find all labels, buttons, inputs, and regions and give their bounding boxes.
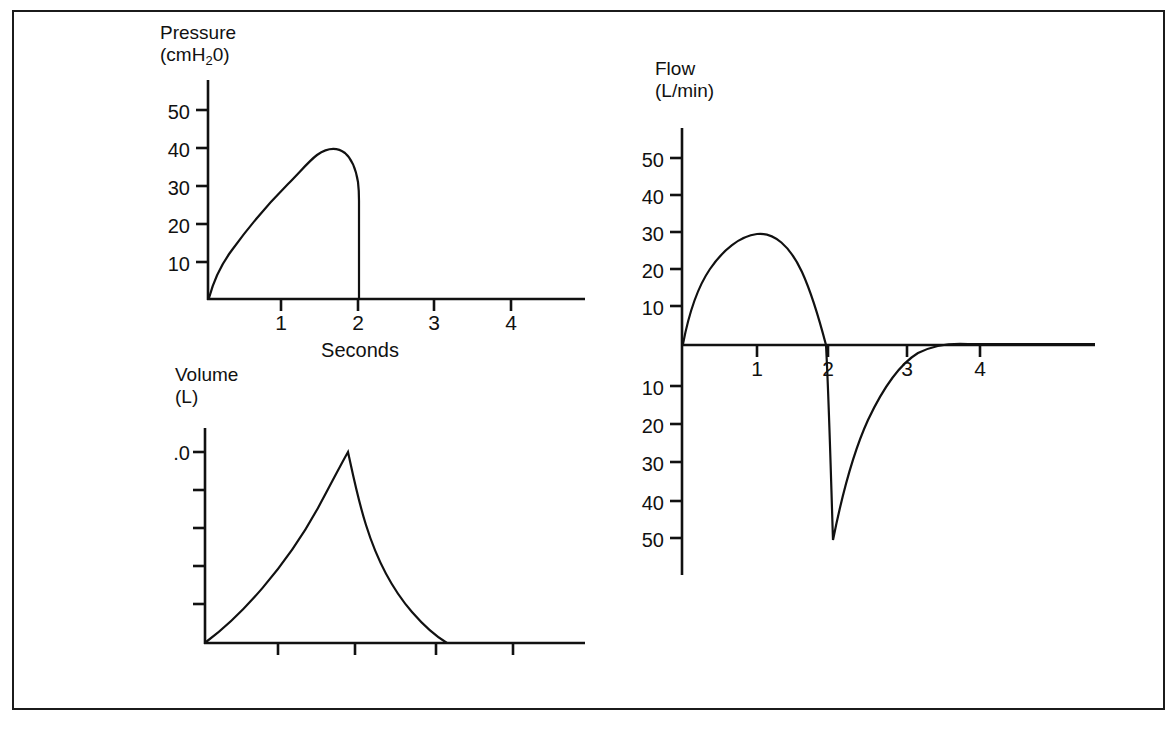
- flow-inspiratory-waveform: [683, 234, 826, 345]
- flow-expiratory-waveform: [826, 344, 1095, 540]
- volume-plot-svg: [0, 0, 600, 360]
- flow-plot-svg: [600, 0, 1176, 731]
- volume-panel: Volume (L) .0 1 2 3 4 Seconds: [0, 350, 600, 710]
- volume-y-axis-title: Volume (L): [175, 364, 238, 408]
- volume-y-axis-title-line1: Volume: [175, 364, 238, 385]
- volume-ytick-top: .0: [140, 443, 190, 463]
- volume-waveform: [206, 452, 585, 643]
- ventilator-waveform-figure: Pressure (cmH20) 50 40 30 20 10 1 2 3 4 …: [0, 0, 1176, 731]
- flow-panel: Flow (L/min) 50 40 30 20 10 10 20 30 40 …: [600, 0, 1176, 731]
- volume-y-axis-title-line2: (L): [175, 386, 198, 407]
